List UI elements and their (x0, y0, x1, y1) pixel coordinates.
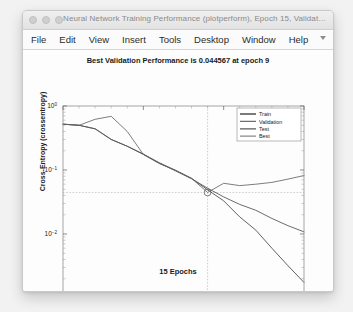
svg-text:10−1: 10−1 (45, 166, 58, 174)
menu-insert[interactable]: Insert (122, 34, 146, 45)
chevron-down-icon[interactable] (320, 36, 326, 40)
svg-text:Validation: Validation (259, 119, 282, 125)
svg-text:Best: Best (259, 133, 270, 139)
svg-text:Train: Train (259, 111, 271, 117)
close-light-icon[interactable] (29, 16, 37, 24)
menu-window[interactable]: Window (242, 34, 276, 45)
menu-desktop[interactable]: Desktop (194, 34, 229, 45)
menu-help[interactable]: Help (289, 34, 309, 45)
figure-canvas: Best Validation Performance is 0.044567 … (23, 50, 333, 292)
menu-file[interactable]: File (31, 34, 46, 45)
svg-text:Test: Test (259, 126, 269, 132)
minimize-light-icon[interactable] (42, 16, 50, 24)
svg-text:10−2: 10−2 (45, 230, 58, 238)
menu-view[interactable]: View (89, 34, 109, 45)
chart-svg: 10010−110−210−3051015 TrainValidationTes… (23, 50, 333, 292)
menu-tools[interactable]: Tools (159, 34, 181, 45)
window-controls (29, 16, 63, 24)
menu-edit[interactable]: Edit (59, 34, 75, 45)
figure-window: Neural Network Training Performance (plo… (22, 10, 334, 292)
chart-legend[interactable]: TrainValidationTestBest (237, 108, 301, 141)
menubar: File Edit View Insert Tools Desktop Wind… (23, 30, 333, 50)
plot-area: 10010−110−210−3051015 TrainValidationTes… (23, 50, 333, 292)
window-title: Neural Network Training Performance (plo… (63, 14, 327, 23)
zoom-light-icon[interactable] (55, 16, 63, 24)
screen: Neural Network Training Performance (plo… (0, 0, 353, 312)
svg-text:100: 100 (47, 102, 57, 110)
window-titlebar: Neural Network Training Performance (plo… (23, 11, 333, 30)
